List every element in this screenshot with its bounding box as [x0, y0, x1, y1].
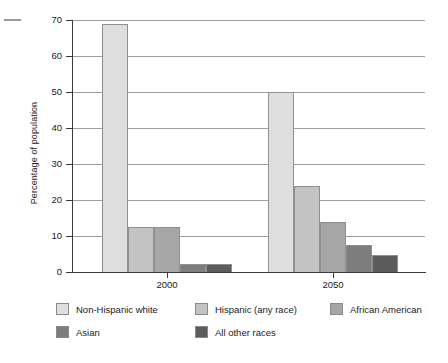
y-tick-label-10: 10 — [22, 231, 62, 241]
x-tick-label-2050: 2050 — [303, 279, 363, 290]
legend-label-asian: Asian — [76, 327, 100, 338]
legend-swatch-non-hispanic-white — [56, 303, 69, 315]
bar-2000-asian — [180, 264, 206, 272]
bar-2050-african-american — [320, 222, 346, 272]
legend-label-african-american: African American — [350, 304, 422, 315]
legend-item-all-other-races[interactable]: All other races — [195, 326, 276, 338]
bar-2000-all-other-races — [206, 264, 232, 272]
population-bar-chart-figure: Percentage of population 010203040506070… — [0, 0, 448, 363]
y-tick-label-60: 60 — [22, 51, 62, 61]
bar-2000-african-american — [154, 227, 180, 272]
legend-item-non-hispanic-white[interactable]: Non-Hispanic white — [56, 303, 158, 315]
legend-item-hispanic-any-race[interactable]: Hispanic (any race) — [195, 303, 297, 315]
bar-2050-all-other-races — [372, 255, 398, 272]
legend-label-all-other-races: All other races — [215, 327, 276, 338]
y-axis-line — [72, 20, 73, 273]
y-tick-label-20: 20 — [22, 195, 62, 205]
x-axis-line — [72, 272, 426, 273]
legend-label-hispanic-any-race: Hispanic (any race) — [215, 304, 297, 315]
bar-2000-hispanic-any-race — [128, 227, 154, 272]
gridline-70 — [73, 20, 425, 21]
x-tick-mark-2000 — [167, 273, 168, 278]
legend-item-african-american[interactable]: African American — [330, 303, 422, 315]
legend-swatch-african-american — [330, 303, 343, 315]
y-tick-label-70: 70 — [22, 15, 62, 25]
bar-2050-non-hispanic-white — [268, 92, 294, 272]
legend-item-asian[interactable]: Asian — [56, 326, 100, 338]
x-tick-mark-2050 — [333, 273, 334, 278]
bar-2050-hispanic-any-race — [294, 186, 320, 272]
legend-label-non-hispanic-white: Non-Hispanic white — [76, 304, 158, 315]
y-tick-label-0: 0 — [22, 267, 62, 277]
x-tick-label-2000: 2000 — [137, 279, 197, 290]
bar-2050-asian — [346, 245, 372, 272]
y-tick-label-30: 30 — [22, 159, 62, 169]
chart-legend: Non-Hispanic whiteHispanic (any race)Afr… — [0, 298, 448, 358]
legend-swatch-asian — [56, 326, 69, 338]
legend-swatch-hispanic-any-race — [195, 303, 208, 315]
y-tick-label-40: 40 — [22, 123, 62, 133]
plot-area: Percentage of population 010203040506070… — [0, 0, 448, 295]
bar-2000-non-hispanic-white — [102, 24, 128, 272]
y-tick-label-50: 50 — [22, 87, 62, 97]
legend-swatch-all-other-races — [195, 326, 208, 338]
